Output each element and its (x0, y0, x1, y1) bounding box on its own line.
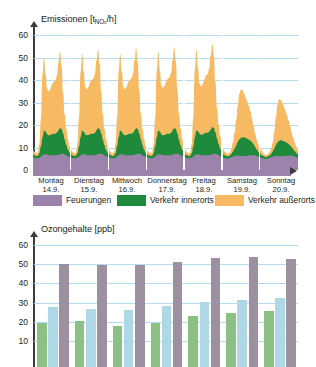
ozone-ytick-40: 40 (8, 279, 28, 288)
day-separator (221, 30, 222, 176)
ozone-bar (124, 310, 134, 367)
emissions-y-axis-arrow-icon (30, 21, 38, 27)
ozone-bar (286, 259, 296, 367)
ozone-bar (211, 258, 221, 367)
ozone-bar (113, 326, 123, 367)
ozone-ytick-50: 50 (8, 260, 28, 269)
day-label-samstag: Samstag 19.9. (221, 177, 263, 194)
day-separator (146, 30, 147, 176)
ozone-bar (86, 309, 96, 367)
emissions-chart: Emissionen [tNOx/h] 60 50 40 30 20 10 0 (0, 0, 307, 196)
ozone-bar (75, 321, 85, 367)
ozone-bar (173, 262, 183, 367)
emissions-x-axis-arrow-icon (290, 167, 297, 175)
ozone-bar (135, 265, 145, 367)
day-date: 14.9. (31, 186, 71, 195)
ozone-y-axis-arrow-icon (30, 231, 38, 237)
day-date: 20.9. (260, 186, 302, 195)
ozone-bar (48, 307, 58, 367)
ozone-bar (59, 264, 69, 367)
emissions-axis-title: Emissionen [tNOx/h] (41, 14, 116, 24)
ozone-plot-area (33, 242, 298, 367)
ozone-bar (37, 323, 47, 367)
legend-swatch-verkehr-innerorts (117, 195, 146, 206)
ozone-bar (237, 300, 247, 367)
day-separator (108, 30, 109, 176)
day-date: 15.9. (68, 186, 110, 195)
ozone-chart: Ozongehalte [ppb] 60 50 40 30 20 10 (0, 212, 307, 355)
emissions-ytick-0: 0 (8, 166, 28, 175)
day-label-donnerstag: Donnerstag 17.9. (142, 177, 192, 194)
day-label-sonntag: Sonntag 20.9. (260, 177, 302, 194)
day-separator (259, 30, 260, 176)
ozone-bar (200, 302, 210, 367)
emissions-ytick-10: 10 (8, 144, 28, 153)
ozone-bar (249, 257, 259, 367)
day-date: 17.9. (142, 186, 192, 195)
legend-label-feuerungen: Feuerungen (66, 195, 111, 206)
legend-swatch-verkehr-ausserorts (215, 195, 244, 206)
ozone-bar (226, 313, 236, 367)
legend-label-verkehr-ausserorts: Verkehr außerorts (248, 195, 315, 206)
legend-item-verkehr-ausserorts: Verkehr außerorts (215, 194, 310, 208)
day-label-freitag: Freitag 18.9. (186, 177, 222, 194)
emissions-ytick-50: 50 (8, 54, 28, 63)
emissions-ytick-20: 20 (8, 121, 28, 130)
day-separator (70, 30, 71, 176)
emissions-ytick-30: 30 (8, 99, 28, 108)
ozone-bar (188, 316, 198, 367)
ozone-ytick-60: 60 (8, 241, 28, 250)
day-date: 18.9. (186, 186, 222, 195)
ozone-axis-title: Ozongehalte [ppb] (41, 224, 114, 234)
day-date: 19.9. (221, 186, 263, 195)
emissions-ytick-60: 60 (8, 31, 28, 40)
ozone-bar (97, 265, 107, 367)
legend: Feuerungen Verkehr innerorts Verkehr auß… (0, 194, 307, 210)
day-label-dienstag: Dienstag 15.9. (68, 177, 110, 194)
ozone-ytick-20: 20 (8, 318, 28, 327)
ozone-bar (264, 311, 274, 367)
legend-label-verkehr-innerorts: Verkehr innerorts (150, 195, 214, 206)
legend-swatch-feuerungen (33, 195, 62, 206)
ozone-ytick-10: 10 (8, 337, 28, 346)
day-separator (183, 30, 184, 176)
ozone-bar (275, 298, 285, 367)
emissions-axis-title-text: Emissionen [tNOx/h] (41, 14, 116, 24)
ozone-ytick-30: 30 (8, 299, 28, 308)
ozone-bar (151, 323, 161, 367)
emissions-ytick-40: 40 (8, 76, 28, 85)
ozone-bar (162, 306, 172, 367)
day-label-montag: Montag 14.9. (31, 177, 71, 194)
